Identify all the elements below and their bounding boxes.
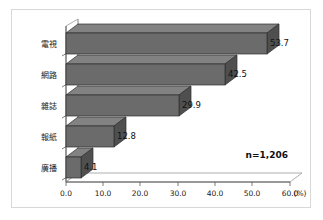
xtick-label: 10.0 xyxy=(95,189,112,198)
xtick-label: 20.0 xyxy=(132,189,149,198)
bar-value-label: 4.1 xyxy=(84,162,98,172)
bar-value-label: 12.8 xyxy=(117,131,136,141)
xtick-label: 30.0 xyxy=(170,189,187,198)
category-label-magazine: 雜誌 xyxy=(41,101,57,111)
bar-item[interactable] xyxy=(66,55,237,85)
bar-item[interactable] xyxy=(66,24,279,54)
bar-top-face xyxy=(66,55,237,64)
bar-front-face xyxy=(66,95,179,116)
value-tick-marks xyxy=(66,182,290,186)
category-label-tv: 電視 xyxy=(41,40,57,49)
xtick-label: 40.0 xyxy=(207,189,224,198)
bar-value-label: 29.9 xyxy=(182,100,201,110)
bar-value-label: 53.7 xyxy=(270,38,289,48)
bar-item[interactable] xyxy=(66,86,191,116)
axis-unit-label: (%) xyxy=(294,189,307,198)
xtick-label: 0.0 xyxy=(60,189,72,198)
category-label-radio: 廣播 xyxy=(41,163,57,173)
bar-front-face xyxy=(66,64,225,85)
bar-chart: 53.7 42.5 29.9 12.8 4.1 電視 網路 雜誌 報紙 廣播 0… xyxy=(12,10,312,209)
category-label-internet: 網路 xyxy=(41,70,57,80)
bar-front-face xyxy=(66,126,114,147)
axis-floor xyxy=(66,173,302,182)
bar-front-face xyxy=(66,157,81,178)
sample-size-annotation: n=1,206 xyxy=(246,150,288,160)
bar-front-face xyxy=(66,33,267,54)
xtick-label: 50.0 xyxy=(244,189,261,198)
category-label-newspaper: 報紙 xyxy=(41,132,57,142)
bar-top-face xyxy=(66,86,191,95)
chart-frame: 53.7 42.5 29.9 12.8 4.1 電視 網路 雜誌 報紙 廣播 0… xyxy=(11,9,311,208)
chart-plot-area: 53.7 42.5 29.9 12.8 4.1 電視 網路 雜誌 報紙 廣播 0… xyxy=(12,10,312,209)
bar-value-label: 42.5 xyxy=(228,69,247,79)
bar-top-face xyxy=(66,24,279,33)
